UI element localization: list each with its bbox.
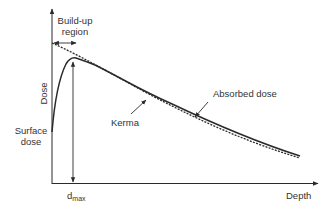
absorbed-dose-label: Absorbed dose: [213, 88, 277, 99]
buildup-label-line2: region: [57, 26, 93, 37]
kerma-pointer-arrow: [131, 100, 146, 114]
absorbed-dose-pointer-arrow: [195, 102, 208, 117]
x-axis-label: Depth: [286, 190, 311, 201]
absorbed-dose-curve: [52, 58, 300, 156]
y-axis-label: Dose: [38, 81, 49, 107]
depth-dose-diagram: [0, 0, 333, 210]
kerma-label: Kerma: [111, 117, 139, 128]
dmax-label-sub: max: [72, 195, 85, 202]
surface-label-line1: Surface: [13, 125, 49, 136]
surface-dose-label: Surface dose: [13, 125, 49, 147]
buildup-region-label: Build-up region: [57, 15, 93, 37]
buildup-label-line1: Build-up: [57, 15, 93, 26]
surface-label-line2: dose: [13, 136, 49, 147]
kerma-curve: [52, 43, 300, 158]
dmax-label: dmax: [67, 190, 86, 204]
